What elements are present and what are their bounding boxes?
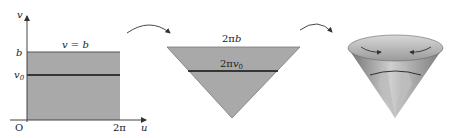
- arrow-rect-to-sector: [127, 25, 170, 33]
- rectangle-region: [27, 52, 120, 120]
- two-pi-label: 2π: [113, 122, 126, 133]
- sector-panel: 2πb 2πv0: [167, 33, 300, 118]
- rectangle-panel: v u O b v0 2π v = b: [10, 9, 147, 133]
- cone-panel: [348, 35, 443, 118]
- arrow-sector-to-cone: [300, 24, 332, 32]
- origin-label: O: [15, 122, 23, 133]
- b-tick-label: b: [16, 47, 22, 58]
- v-axis-label: v: [17, 9, 23, 20]
- v0-tick-label: v0: [14, 69, 25, 82]
- v-equals-b-label: v = b: [62, 39, 89, 50]
- diagram-canvas: v u O b v0 2π v = b 2πb 2πv0: [0, 0, 452, 138]
- sector-top-label: 2πb: [222, 33, 241, 44]
- u-axis-label: u: [141, 122, 147, 133]
